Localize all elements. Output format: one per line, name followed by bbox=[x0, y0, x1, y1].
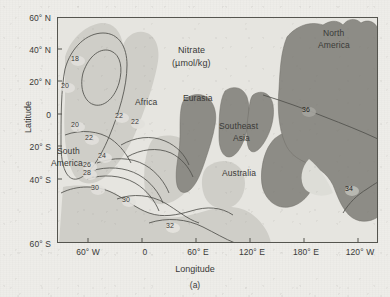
y-axis-label: Latitude bbox=[23, 82, 33, 152]
contour-label-26: 26 bbox=[83, 161, 91, 168]
contour-label-34: 34 bbox=[345, 185, 353, 192]
ytick-60s: 60° S bbox=[5, 239, 51, 249]
contour-label-30-b: 30 bbox=[122, 196, 130, 203]
ytick-60n: 60° N bbox=[5, 13, 51, 23]
contour-label-22-b: 22 bbox=[131, 118, 139, 125]
xtick-180e: 180° E bbox=[276, 247, 336, 257]
panel-label: (a) bbox=[0, 280, 390, 290]
xtick-60w: 60° W bbox=[58, 247, 118, 257]
label-australia: Australia bbox=[222, 168, 256, 178]
contour-label-24: 24 bbox=[98, 152, 106, 159]
contour-label-20-a: 20 bbox=[61, 82, 69, 89]
contour-label-20-b: 20 bbox=[71, 121, 79, 128]
chart-title-line1: Nitrate bbox=[178, 45, 205, 55]
contour-label-36: 36 bbox=[302, 106, 310, 113]
xtick-0: 0 bbox=[115, 247, 175, 257]
contour-label-22-a: 22 bbox=[115, 112, 123, 119]
contour-label-32: 32 bbox=[166, 222, 174, 229]
contour-label-28: 28 bbox=[83, 169, 91, 176]
contour-label-22-c: 22 bbox=[85, 134, 93, 141]
chart-title-line2: (µmol/kg) bbox=[172, 58, 211, 68]
label-south-america-line1: South bbox=[57, 146, 80, 156]
xtick-120e: 120° E bbox=[222, 247, 282, 257]
label-southeast-asia-line1: Southeast bbox=[219, 121, 258, 131]
label-eurasia: Eurasia bbox=[183, 93, 213, 103]
ytick-40s: 40° S bbox=[5, 175, 51, 185]
label-north-america-line1: North bbox=[323, 28, 344, 38]
contour-label-30-a: 30 bbox=[91, 184, 99, 191]
ytick-40n: 40° N bbox=[5, 45, 51, 55]
xtick-60e: 60° E bbox=[168, 247, 228, 257]
contour-map-plot bbox=[57, 17, 378, 243]
x-axis-label: Longitude bbox=[0, 264, 390, 274]
label-south-america-line2: America bbox=[51, 158, 83, 168]
label-north-america-line2: America bbox=[318, 40, 350, 50]
contour-label-18: 18 bbox=[71, 55, 79, 62]
figure-panel: 60° N 40° N 20° N 0 20° S 40° S 60° S 60… bbox=[0, 0, 390, 297]
label-africa: Africa bbox=[135, 97, 157, 107]
xtick-120w: 120° W bbox=[330, 247, 390, 257]
label-southeast-asia-line2: Asia bbox=[233, 133, 250, 143]
